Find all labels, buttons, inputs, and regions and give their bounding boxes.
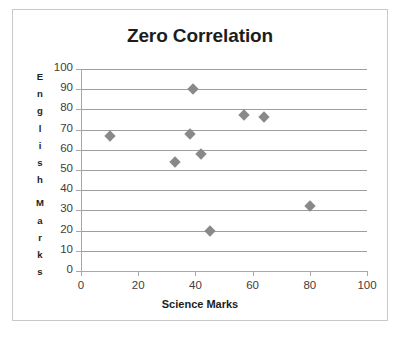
- data-point-marker: [187, 84, 198, 95]
- x-axis-tick-label: 80: [290, 279, 330, 291]
- y-axis-tick: [76, 150, 81, 151]
- gridline: [81, 170, 367, 171]
- chart-card: Zero Correlation EnglishMarks 0102030405…: [12, 9, 388, 321]
- gridline: [81, 251, 367, 252]
- gridline: [81, 210, 367, 211]
- plot-area: 0102030405060708090100 020406080100: [81, 69, 367, 271]
- y-axis-tick: [76, 210, 81, 211]
- gridline: [81, 109, 367, 110]
- y-axis-tick: [76, 170, 81, 171]
- y-axis-tick: [76, 69, 81, 70]
- x-axis-tick: [310, 271, 311, 276]
- y-axis-tick-label: 90: [33, 81, 73, 93]
- data-point-marker: [104, 130, 115, 141]
- y-axis-tick: [76, 251, 81, 252]
- gridline: [81, 69, 367, 70]
- gridline: [81, 150, 367, 151]
- y-axis-tick-label: 0: [33, 263, 73, 275]
- y-axis-tick: [76, 89, 81, 90]
- y-axis-tick: [76, 130, 81, 131]
- x-axis-tick-label: 100: [347, 279, 387, 291]
- y-axis-tick: [76, 109, 81, 110]
- x-axis-tick-label: 20: [118, 279, 158, 291]
- gridline: [81, 190, 367, 191]
- x-axis-title: Science Marks: [13, 298, 387, 310]
- y-axis-tick-label: 60: [33, 142, 73, 154]
- y-axis-tick-label: 80: [33, 101, 73, 113]
- x-axis-tick-label: 60: [233, 279, 273, 291]
- x-axis-tick: [367, 271, 368, 276]
- x-axis-tick: [138, 271, 139, 276]
- x-axis-tick: [81, 271, 82, 276]
- y-axis-tick-label: 40: [33, 182, 73, 194]
- gridline: [81, 231, 367, 232]
- y-axis-tick: [76, 231, 81, 232]
- y-axis-tick-label: 20: [33, 223, 73, 235]
- y-axis-tick-label: 50: [33, 162, 73, 174]
- y-axis-line: [81, 69, 82, 271]
- gridline: [81, 89, 367, 90]
- x-axis-tick: [253, 271, 254, 276]
- data-point-marker: [170, 156, 181, 167]
- x-axis-line: [81, 271, 367, 272]
- data-point-marker: [258, 112, 269, 123]
- x-axis-tick-label: 40: [175, 279, 215, 291]
- chart-title: Zero Correlation: [13, 25, 387, 47]
- y-axis-tick-label: 70: [33, 122, 73, 134]
- y-axis-tick-label: 10: [33, 243, 73, 255]
- x-axis-tick: [195, 271, 196, 276]
- data-point-marker: [238, 110, 249, 121]
- y-axis-tick-label: 30: [33, 202, 73, 214]
- x-axis-tick-label: 0: [61, 279, 101, 291]
- data-point-marker: [204, 225, 215, 236]
- gridline: [81, 130, 367, 131]
- y-axis-tick: [76, 190, 81, 191]
- y-axis-tick-label: 100: [33, 61, 73, 73]
